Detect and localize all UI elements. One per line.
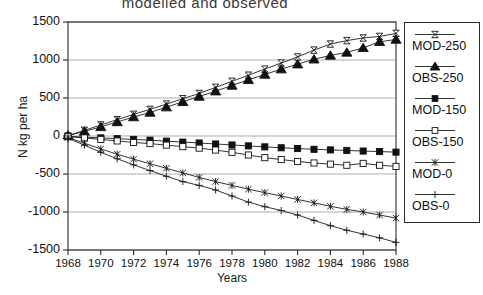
y-tick-label: -1000 (8, 204, 60, 218)
legend-label: OBS-250 (405, 72, 481, 85)
y-tick-label: 1500 (8, 14, 60, 28)
series-obs-250 (63, 35, 401, 139)
legend-item-obs-150[interactable]: OBS-150 (405, 125, 481, 149)
chart-legend: MOD-250OBS-250MOD-150OBS-150MOD-0OBS-0 (404, 22, 480, 223)
legend-item-obs-250[interactable]: OBS-250 (405, 61, 481, 85)
legend-item-mod-250[interactable]: MOD-250 (405, 29, 481, 53)
y-tick-label: -1500 (8, 242, 60, 256)
y-tick-label: 500 (8, 90, 60, 104)
legend-marker-mod-150-icon (405, 93, 481, 104)
legend-label: MOD-150 (405, 104, 481, 117)
legend-label: OBS-0 (405, 200, 481, 213)
chart-figure: modelled and observed N kg per ha Years … (0, 0, 483, 295)
y-tick-label: -500 (8, 166, 60, 180)
legend-marker-obs-0-icon (405, 189, 481, 200)
y-tick-label: 0 (8, 128, 60, 142)
legend-label: MOD-250 (405, 40, 481, 53)
legend-marker-mod-0-icon (405, 157, 481, 168)
legend-label: MOD-0 (405, 168, 481, 181)
legend-marker-obs-150-icon (405, 125, 481, 136)
legend-item-obs-0[interactable]: OBS-0 (405, 189, 481, 213)
y-tick-label: 1000 (8, 52, 60, 66)
legend-marker-obs-250-icon (405, 61, 481, 72)
legend-item-mod-150[interactable]: MOD-150 (405, 93, 481, 117)
legend-item-mod-0[interactable]: MOD-0 (405, 157, 481, 181)
x-tick-label: 1988 (374, 257, 418, 269)
legend-marker-mod-250-icon (405, 29, 481, 40)
legend-label: OBS-150 (405, 136, 481, 149)
data-series-layer (63, 30, 401, 246)
